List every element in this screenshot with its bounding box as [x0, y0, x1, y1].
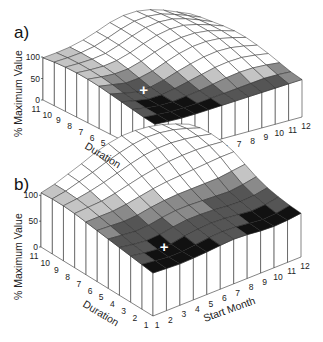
- month-tick-label: 8: [250, 136, 255, 146]
- month-tick-label: 1: [155, 320, 160, 330]
- month-tick-label: 6: [222, 293, 227, 303]
- z-tick-label: 50: [29, 216, 39, 226]
- duration-tick-label: 7: [78, 127, 83, 137]
- duration-tick-label: 1: [144, 320, 149, 330]
- minimum-marker-plus-icon: +: [139, 81, 148, 98]
- duration-tick-label: 7: [76, 279, 81, 289]
- duration-tick-label: 6: [88, 286, 93, 296]
- month-tick-label: 9: [264, 132, 269, 142]
- month-tick-label: 5: [208, 299, 213, 309]
- figure: 050100+1234567891011123456789101112 0501…: [0, 0, 323, 342]
- duration-tick-label: 5: [99, 292, 104, 302]
- month-tick-label: 11: [288, 125, 297, 135]
- month-tick-label: 3: [182, 309, 187, 319]
- panel-b-z-axis-title: % Maximum Value: [12, 213, 24, 300]
- z-tick-label: 50: [31, 74, 41, 84]
- month-tick-label: 2: [168, 315, 173, 325]
- duration-tick-label: 11: [32, 104, 41, 114]
- panel-a-z-axis-title: % Maximum Value: [12, 50, 24, 137]
- panel-b-surface-plot: 050100+1234567891011123456789101112: [24, 124, 310, 330]
- duration-tick-label: 4: [110, 299, 115, 309]
- duration-tick-label: 10: [42, 110, 52, 120]
- duration-tick-label: 8: [65, 272, 70, 282]
- z-tick-label: 100: [26, 52, 40, 62]
- month-tick-label: 12: [301, 121, 311, 131]
- panel-a-label: a): [14, 23, 29, 42]
- panel-b-label: b): [14, 175, 29, 194]
- month-tick-label: 10: [275, 128, 285, 138]
- month-tick-label: 9: [262, 277, 267, 287]
- month-tick-label: 7: [235, 288, 240, 298]
- duration-tick-label: 10: [40, 258, 50, 268]
- duration-tick-label: 9: [56, 115, 61, 125]
- month-tick-label: 7: [237, 139, 242, 149]
- minimum-marker-plus-icon: +: [160, 238, 169, 255]
- month-tick-label: 12: [300, 261, 310, 271]
- month-tick-label: 8: [249, 282, 254, 292]
- duration-tick-label: 11: [30, 251, 39, 261]
- month-tick-label: 10: [273, 272, 283, 282]
- duration-tick-label: 2: [132, 313, 137, 323]
- duration-tick-label: 8: [67, 121, 72, 131]
- month-tick-label: 4: [195, 304, 200, 314]
- duration-tick-label: 3: [121, 306, 126, 316]
- duration-tick-label: 9: [54, 265, 59, 275]
- month-tick-label: 11: [287, 266, 296, 276]
